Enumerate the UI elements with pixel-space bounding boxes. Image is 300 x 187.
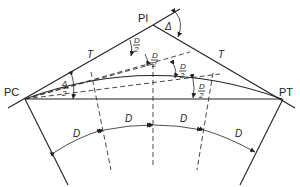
radial-line-pt [240, 99, 283, 185]
arc-label-d-1: D [73, 128, 80, 139]
pi-label: PI [138, 12, 148, 24]
delta-half-den: 2 [61, 89, 67, 98]
delta-angle-arc [176, 13, 181, 37]
pc-label: PC [4, 86, 19, 98]
tangent-label-left: T [87, 49, 94, 60]
d-half-num-1: D [134, 36, 140, 45]
radial-line-pc [25, 99, 68, 185]
d-half-arc-4 [193, 79, 194, 98]
d-half-den-3: 2 [179, 71, 185, 80]
radial-dashed-1 [91, 72, 111, 170]
d-half-den-4: 2 [198, 91, 204, 100]
back-tangent-line [8, 25, 153, 108]
central-angle-arc-4 [204, 130, 255, 152]
d-half-num-4: D [199, 82, 205, 91]
curve-diagram: Δ Δ 2 D 2 D 2 D 2 D 2 D D D D PC PI PT T… [0, 0, 300, 187]
d-half-arc-1 [130, 40, 132, 56]
central-angle-arc-3 [154, 125, 202, 130]
tangent-label-right: T [218, 49, 225, 60]
delta-half-arc [72, 76, 74, 99]
pt-label: PT [279, 86, 293, 98]
d-half-num-2: D [152, 51, 158, 60]
d-half-arc-2 [145, 54, 148, 66]
delta-label: Δ [164, 21, 172, 32]
delta-half-num: Δ [61, 79, 67, 88]
d-half-num-3: D [180, 62, 186, 71]
central-angle-arc-2 [104, 125, 152, 130]
arc-label-d-3: D [180, 113, 187, 124]
arc-label-d-4: D [235, 128, 242, 139]
d-half-den-2: 2 [151, 60, 157, 69]
d-half-den-1: 2 [133, 45, 139, 54]
arc-label-d-2: D [125, 113, 132, 124]
